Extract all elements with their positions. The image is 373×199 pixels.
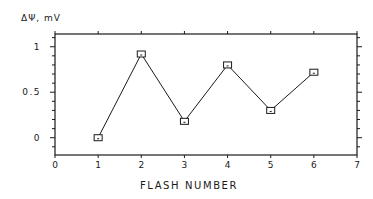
x-axis-label: FLASH NUMBER bbox=[140, 180, 238, 191]
data-point-marker bbox=[224, 62, 232, 68]
x-tick-label: 0 bbox=[52, 160, 58, 170]
data-series bbox=[94, 51, 318, 141]
x-tick-label: 4 bbox=[225, 160, 231, 170]
y-tick-label: 1 bbox=[34, 42, 41, 52]
y-axis-label: ΔΨ, mV bbox=[21, 13, 61, 23]
data-point-marker bbox=[310, 69, 318, 75]
x-tick-label: 1 bbox=[95, 160, 101, 170]
x-tick-label: 7 bbox=[354, 160, 360, 170]
x-tick-label: 6 bbox=[311, 160, 317, 170]
x-tick-label: 2 bbox=[138, 160, 144, 170]
x-tick-label: 5 bbox=[268, 160, 274, 170]
data-point-marker bbox=[94, 135, 102, 141]
line-chart: 0123456700.51 ΔΨ, mV FLASH NUMBER bbox=[0, 0, 373, 199]
series-line bbox=[98, 54, 314, 138]
y-tick-label: 0 bbox=[34, 133, 41, 143]
y-tick-label: 0.5 bbox=[22, 87, 41, 97]
x-tick-label: 3 bbox=[182, 160, 188, 170]
data-point-marker bbox=[180, 118, 188, 124]
axis-tick-labels: 0123456700.51 bbox=[22, 42, 360, 170]
data-point-marker bbox=[137, 51, 145, 57]
data-point-marker bbox=[267, 107, 275, 113]
